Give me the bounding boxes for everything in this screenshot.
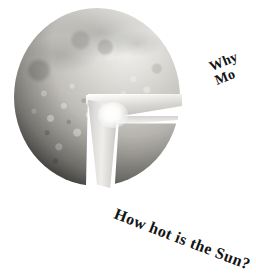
page-canvas: Why Mo How hot is the Sun? [0,0,256,274]
moon-cutaway-figure [14,8,180,186]
moon-core-glow [98,102,128,128]
question-heading-sun: How hot is the Sun? [112,205,253,274]
question-heading-moon: Why Mo [207,49,245,88]
